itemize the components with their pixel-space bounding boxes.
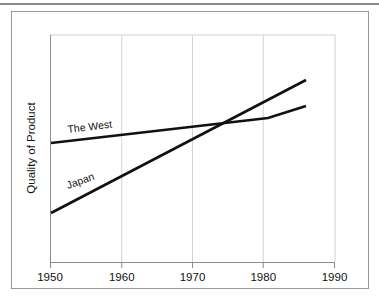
- xtick-label-1970: 1970: [180, 271, 206, 283]
- figure-canvas: 1950 1960 1970 1980 1990 Quality of Prod…: [0, 0, 379, 303]
- xtick-label-1980: 1980: [250, 271, 276, 283]
- xtick-label-1990: 1990: [322, 271, 348, 283]
- line-chart: 1950 1960 1970 1980 1990 Quality of Prod…: [0, 0, 379, 303]
- y-axis-title: Quality of Product: [25, 101, 37, 193]
- xtick-label-1960: 1960: [109, 271, 135, 283]
- xtick-label-1950: 1950: [37, 271, 63, 283]
